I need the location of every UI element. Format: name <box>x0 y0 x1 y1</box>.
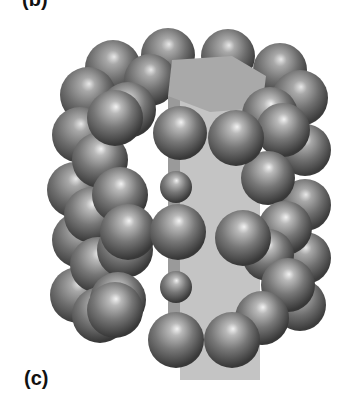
sphere <box>256 103 310 157</box>
panel-label-c: (c) <box>24 367 48 390</box>
sphere <box>100 204 156 260</box>
sphere <box>150 204 206 260</box>
sphere <box>148 312 204 368</box>
front-sphere-layer <box>87 90 271 368</box>
sphere <box>153 106 207 160</box>
sphere <box>215 210 271 266</box>
panel-label-b: (b) <box>22 0 48 11</box>
sphere <box>204 312 260 368</box>
sphere <box>160 271 192 303</box>
sphere <box>87 90 143 146</box>
sphere-packing-figure <box>0 0 346 420</box>
sphere <box>160 171 192 203</box>
sphere <box>87 282 143 338</box>
sphere <box>208 110 264 166</box>
